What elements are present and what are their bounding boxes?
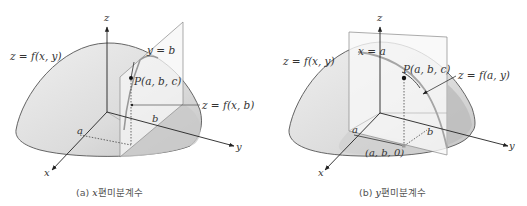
diagram-canvas: z y x z = f(x, y) y = b P(a, b, c) z = f… <box>0 0 527 206</box>
plane-label-b: x = a <box>358 45 386 57</box>
panel-b: z y x z = f(x, y) x = a P(a, b, c) z = f… <box>282 12 515 198</box>
b-tick-label-b: b <box>427 126 433 137</box>
base-point-label-b: (a, b, 0) <box>365 147 404 158</box>
point-p-b <box>402 76 406 80</box>
point-label-b: P(a, b, c) <box>402 63 450 75</box>
caption-prefix-a: (a) <box>76 187 89 198</box>
panel-a: z y x z = f(x, y) y = b P(a, b, c) z = f… <box>9 12 254 198</box>
y-axis-label-a: y <box>235 141 242 152</box>
a-tick-label-a: a <box>77 125 83 136</box>
caption-text-b: 편미분계수 <box>381 187 426 198</box>
surface-label-b: z = f(x, y) <box>282 55 335 67</box>
curve-label-a: z = f(x, b) <box>201 99 254 111</box>
b-tick-label-a: b <box>152 113 158 124</box>
caption-prefix-b: (b) <box>359 187 372 198</box>
caption-b: (b) y편미분계수 <box>359 187 426 198</box>
curve-label-b: z = f(a, y) <box>457 69 510 81</box>
plane-label-a: y = b <box>146 44 175 56</box>
y-axis-label-b: y <box>508 140 515 151</box>
a-tick-label-b: a <box>352 124 358 135</box>
leader-dot <box>131 104 133 106</box>
point-label-a: P(a, b, c) <box>133 75 181 87</box>
point-p-a <box>129 76 133 80</box>
surface-label-a: z = f(x, y) <box>9 50 62 62</box>
z-axis-label-a: z <box>103 12 110 23</box>
x-axis-label-a: x <box>44 167 50 178</box>
caption-a: (a) x편미분계수 <box>76 187 143 198</box>
partial-derivative-figure: z y x z = f(x, y) y = b P(a, b, c) z = f… <box>0 0 527 206</box>
z-axis-label-b: z <box>376 12 383 23</box>
caption-text-a: 편미분계수 <box>98 187 143 198</box>
x-axis-label-b: x <box>318 167 324 178</box>
